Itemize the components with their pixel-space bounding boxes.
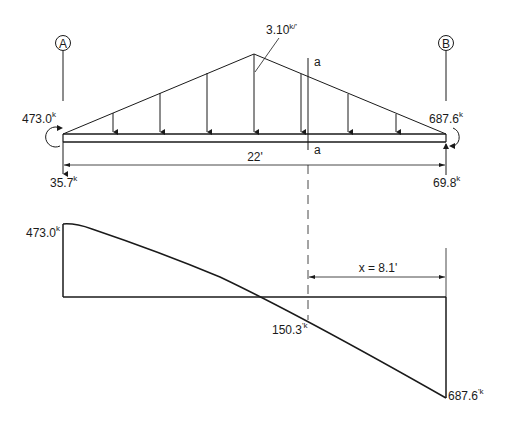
peak-load-label: 3.10k/': [266, 22, 298, 37]
support-b-marker: B: [439, 36, 454, 102]
section-bottom-label: a: [314, 143, 321, 157]
x-distance-label: x = 8.1': [359, 261, 398, 275]
moment-right-value: 687.6'k: [448, 387, 485, 403]
triangular-load: [63, 38, 446, 134]
left-reaction-label: 35.7k: [50, 174, 78, 190]
right-reaction-label: 69.8k: [433, 174, 461, 190]
beam-diagram: A B 3.10k/' 473.0k 35.7k: [0, 0, 509, 426]
beam: [63, 134, 446, 142]
section-top-label: a: [314, 55, 321, 69]
moment-left-value: 473.0k: [26, 224, 61, 240]
moment-diagram: [63, 224, 446, 398]
right-moment-arrow: [449, 128, 459, 149]
support-a-label: A: [59, 37, 67, 51]
moment-section-value: 150.3'k: [272, 321, 309, 337]
left-moment-arrow: [46, 125, 63, 147]
right-moment-label: 687.6k: [429, 110, 464, 126]
left-moment-label: 473.0k: [22, 110, 57, 126]
right-reaction-arrow: [443, 143, 449, 175]
support-a-marker: A: [56, 36, 71, 102]
support-b-label: B: [442, 37, 450, 51]
span-length-label: 22': [247, 150, 263, 164]
